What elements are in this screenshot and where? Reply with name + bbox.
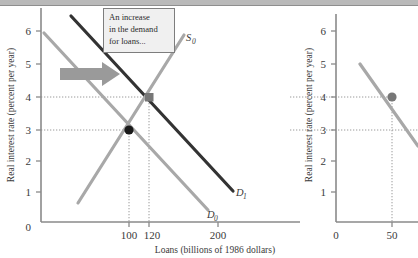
- right-ylabel-3: 3: [321, 124, 327, 136]
- callout-line-3: for loans...: [109, 36, 170, 48]
- right-y-axis-title: Real interest rate (percent per year): [304, 48, 315, 182]
- right-chart-panel: 6 5 4 3 2 1 0 50 Real interest rate (per…: [300, 0, 418, 258]
- right-ylabel-1: 1: [321, 186, 327, 198]
- left-ylabel-1: 1: [26, 186, 32, 198]
- left-xlabel-120: 120: [144, 229, 161, 241]
- curve-label-d1-sub: 1: [243, 192, 247, 201]
- right-xlabel-50: 50: [387, 229, 399, 241]
- left-ylabel-6: 6: [26, 25, 32, 37]
- left-ylabel-0: 0: [26, 221, 32, 233]
- callout-line-1: An increase: [109, 12, 170, 24]
- curve-label-d0-sub: 0: [214, 214, 218, 223]
- right-curve: [360, 64, 418, 146]
- right-chart-svg: 6 5 4 3 2 1 0 50 Real interest rate (per…: [300, 0, 418, 258]
- right-equilibrium-marker: [387, 92, 396, 101]
- right-ylabel-6: 6: [321, 25, 327, 37]
- equilibrium-new-marker: [145, 93, 154, 102]
- left-xlabel-200: 200: [210, 229, 227, 241]
- callout-line-2: in the demand: [109, 24, 170, 36]
- left-ylabel-3: 3: [26, 124, 32, 136]
- curve-d0: [44, 33, 208, 210]
- demand-increase-callout: An increase in the demand for loans...: [103, 8, 175, 53]
- left-y-axis-title: Real interest rate (percent per year): [6, 48, 17, 182]
- right-origin-label: 0: [333, 229, 339, 241]
- curve-label-s0-sub: 0: [192, 37, 196, 46]
- left-ylabel-2: 2: [26, 155, 32, 167]
- left-chart-panel: 6 5 4 3 2 1 0 100 120 200 Real interest …: [0, 0, 300, 258]
- right-ylabel-5: 5: [321, 58, 327, 70]
- right-ylabel-2: 2: [321, 155, 327, 167]
- right-ylabel-4: 4: [321, 91, 327, 103]
- left-ylabel-5: 5: [26, 58, 32, 70]
- equilibrium-old-marker: [124, 125, 133, 134]
- left-xlabel-100: 100: [121, 229, 138, 241]
- left-x-axis-title: Loans (billions of 1986 dollars): [155, 245, 275, 256]
- left-ylabel-4: 4: [26, 91, 32, 103]
